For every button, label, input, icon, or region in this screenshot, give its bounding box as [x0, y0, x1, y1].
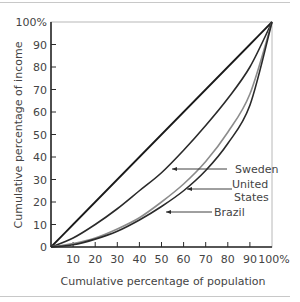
y-tick-label: 20 [33, 196, 47, 209]
x-tick-label: 30 [110, 253, 124, 266]
x-tick-label: 10 [66, 253, 80, 266]
brazil-label: Brazil [214, 206, 245, 219]
y-axis-title: Cumulative percentage of income [12, 41, 25, 228]
y-tick-label: 10 [33, 219, 47, 232]
y-tick-label: 80 [33, 61, 47, 74]
x-tick-label: 90 [243, 253, 257, 266]
brazil-arrowhead-icon [166, 210, 171, 214]
us-label-line2: States [234, 191, 269, 204]
y-tick-label: 50 [33, 129, 47, 142]
x-tick-label: 20 [88, 253, 102, 266]
lorenz-curve-chart: 0102030405060708090100% 1020304050607080… [0, 0, 300, 302]
annotation-brazil: Brazil [166, 206, 245, 219]
y-tick-label: 100% [16, 16, 47, 29]
x-tick-label: 40 [132, 253, 146, 266]
x-tick-label: 80 [221, 253, 235, 266]
x-tick-label: 100% [258, 253, 289, 266]
y-tick-label: 70 [33, 84, 47, 97]
y-tick-label: 90 [33, 39, 47, 52]
y-tick-label: 60 [33, 106, 47, 119]
y-tick-label: 0 [40, 241, 47, 254]
y-tick-label: 30 [33, 174, 47, 187]
x-axis-title: Cumulative percentage of population [60, 275, 265, 288]
x-tick-label: 70 [199, 253, 213, 266]
x-axis-ticks: 102030405060708090100% [66, 242, 290, 266]
sweden-arrowhead-icon [172, 167, 177, 171]
annotation-sweden: Sweden [172, 163, 278, 176]
us-label-line1: United [232, 178, 268, 191]
annotation-united-states: United States [187, 178, 269, 204]
sweden-label: Sweden [235, 163, 278, 176]
y-tick-label: 40 [33, 151, 47, 164]
x-tick-label: 60 [177, 253, 191, 266]
x-tick-label: 50 [155, 253, 169, 266]
